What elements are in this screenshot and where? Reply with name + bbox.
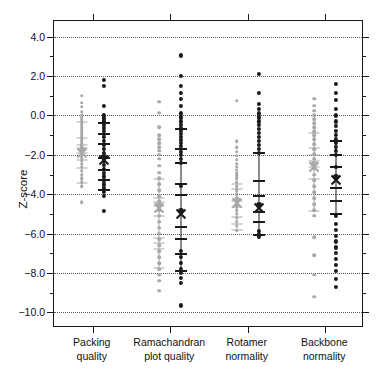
x-axis-group-label: Rotamernormality bbox=[225, 336, 268, 364]
x-axis-group-label: Backbonenormality bbox=[301, 336, 348, 364]
data-point bbox=[312, 202, 316, 206]
data-point bbox=[102, 123, 106, 127]
data-point bbox=[157, 267, 161, 271]
data-point bbox=[179, 255, 183, 259]
data-point bbox=[102, 143, 106, 147]
median-marker bbox=[333, 174, 339, 180]
data-point bbox=[334, 263, 338, 267]
whisker-tick bbox=[253, 152, 265, 154]
whisker-tick bbox=[154, 205, 165, 206]
x-tick bbox=[170, 326, 171, 333]
x-tick-top bbox=[93, 14, 94, 21]
data-point bbox=[257, 135, 261, 139]
data-point bbox=[102, 126, 106, 130]
x-tick bbox=[248, 326, 249, 333]
y-tick-minor-right bbox=[362, 96, 366, 97]
data-point bbox=[179, 276, 183, 280]
data-point bbox=[235, 220, 239, 224]
z-score-scatter-figure: Z-score 4.02.00.0−2.0−4.0−6.0−8.0−10.0 P… bbox=[0, 0, 378, 378]
data-point bbox=[157, 145, 161, 149]
y-tick-label: 0.0 bbox=[30, 109, 45, 121]
data-point bbox=[157, 255, 161, 259]
y-tick-major bbox=[47, 194, 54, 195]
data-point bbox=[257, 139, 261, 143]
whisker-tick bbox=[154, 179, 165, 180]
data-point bbox=[334, 251, 338, 255]
data-point bbox=[157, 137, 161, 141]
whisker-tick bbox=[309, 147, 320, 148]
x-axis-group-label: Ramachandranplot quality bbox=[133, 336, 205, 364]
whisker-tick bbox=[175, 183, 187, 185]
data-point bbox=[334, 119, 338, 123]
data-point bbox=[157, 244, 161, 248]
median-marker bbox=[79, 147, 85, 153]
data-point bbox=[179, 267, 183, 271]
whisker-tick bbox=[76, 122, 87, 123]
data-point bbox=[235, 229, 239, 233]
data-point bbox=[257, 143, 261, 147]
whisker-tick bbox=[76, 152, 87, 153]
whisker-tick bbox=[253, 221, 265, 223]
data-point bbox=[80, 139, 84, 143]
data-point bbox=[334, 91, 338, 95]
data-point bbox=[157, 214, 161, 218]
y-tick-label: −4.0 bbox=[24, 188, 45, 200]
y-tick-major-right bbox=[362, 234, 369, 235]
y-tick-minor bbox=[50, 253, 54, 254]
whisker-tick bbox=[154, 249, 165, 250]
gridline bbox=[54, 115, 362, 116]
mean-marker-x-icon bbox=[309, 158, 320, 169]
data-point bbox=[157, 226, 161, 230]
data-point bbox=[179, 104, 183, 108]
y-tick-label: −8.0 bbox=[24, 267, 45, 279]
whisker-tick bbox=[76, 144, 87, 145]
data-point bbox=[334, 133, 338, 137]
y-tick-minor bbox=[50, 96, 54, 97]
data-point bbox=[334, 257, 338, 261]
x-axis-group-label-line: normality bbox=[225, 350, 268, 364]
data-point bbox=[179, 157, 183, 161]
data-point bbox=[157, 188, 161, 192]
data-point bbox=[80, 157, 84, 161]
data-point bbox=[235, 165, 239, 169]
data-point bbox=[179, 129, 183, 133]
data-point bbox=[157, 208, 161, 212]
whisker-tick bbox=[175, 148, 187, 150]
data-point bbox=[312, 208, 316, 212]
data-point bbox=[312, 162, 316, 166]
data-point bbox=[334, 239, 338, 243]
data-point bbox=[102, 84, 106, 88]
data-point bbox=[80, 162, 84, 166]
whisker-tick bbox=[98, 157, 110, 159]
data-point bbox=[312, 236, 316, 240]
data-point bbox=[102, 135, 106, 139]
data-point bbox=[179, 97, 183, 101]
whisker-tick bbox=[309, 133, 320, 134]
y-tick-major bbox=[47, 37, 54, 38]
data-series-layer bbox=[54, 21, 362, 326]
median-marker bbox=[178, 208, 184, 214]
data-point bbox=[80, 142, 84, 146]
y-tick-major bbox=[47, 76, 54, 77]
data-point bbox=[179, 303, 183, 307]
data-point bbox=[334, 137, 338, 141]
whisker-tick bbox=[253, 195, 265, 197]
data-point bbox=[235, 168, 239, 172]
whisker-tick bbox=[231, 216, 242, 217]
whisker-tick bbox=[98, 133, 110, 135]
whisker-tick bbox=[98, 122, 110, 124]
whisker-tick bbox=[154, 215, 165, 216]
data-point bbox=[235, 200, 239, 204]
data-point bbox=[312, 125, 316, 129]
data-point bbox=[179, 147, 183, 151]
whisker-tick bbox=[309, 166, 320, 167]
data-point bbox=[235, 150, 239, 154]
data-point bbox=[102, 159, 106, 163]
y-tick-major bbox=[47, 312, 54, 313]
y-tick-minor-right bbox=[362, 293, 366, 294]
data-point bbox=[157, 141, 161, 145]
data-point bbox=[80, 147, 84, 151]
data-point bbox=[312, 118, 316, 122]
data-point bbox=[157, 199, 161, 203]
mean-marker-x-icon bbox=[154, 200, 165, 211]
